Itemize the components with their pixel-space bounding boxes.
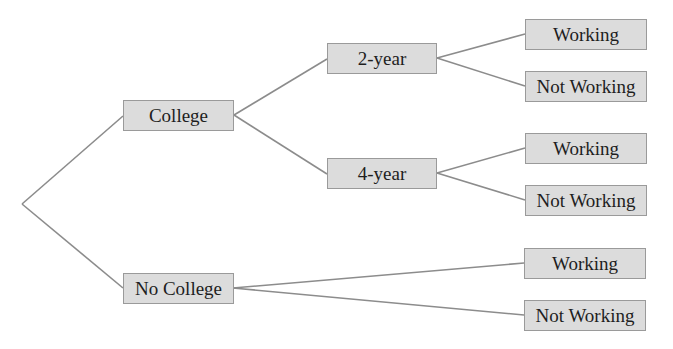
node-no-college-working: Working bbox=[524, 248, 646, 279]
edge-root-college bbox=[22, 116, 123, 204]
node-2-year-not-working: Not Working bbox=[525, 71, 647, 102]
edge-root-no-college bbox=[22, 204, 123, 288]
node-4-year-not-working: Not Working bbox=[525, 185, 647, 216]
edge-college-4year bbox=[234, 115, 327, 174]
edge-4year-working bbox=[437, 148, 525, 173]
node-4-year: 4-year bbox=[327, 158, 437, 189]
node-no-college-not-working: Not Working bbox=[524, 300, 646, 331]
edge-4year-not-working bbox=[437, 173, 525, 200]
node-no-college: No College bbox=[123, 273, 234, 304]
edge-2year-working bbox=[437, 34, 525, 58]
decision-tree-diagram: College No College 2-year 4-year Working… bbox=[0, 0, 673, 349]
edge-nocollege-not-working bbox=[233, 288, 524, 315]
edge-nocollege-working bbox=[233, 263, 524, 288]
edge-college-2year bbox=[234, 59, 327, 115]
node-2-year: 2-year bbox=[327, 43, 437, 74]
node-4-year-working: Working bbox=[525, 133, 647, 164]
node-college: College bbox=[123, 100, 234, 131]
node-2-year-working: Working bbox=[525, 19, 647, 50]
edge-2year-not-working bbox=[437, 58, 525, 86]
